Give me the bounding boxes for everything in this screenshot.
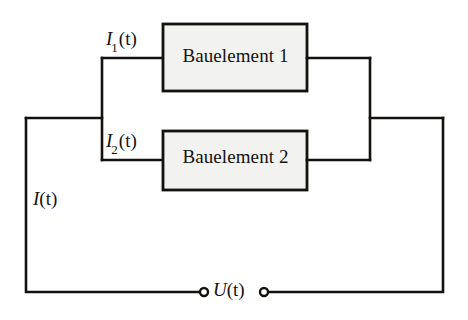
current-label-branch-1: I1(t) (106, 28, 137, 54)
voltage-terminal-right (260, 288, 268, 296)
component-label-bauelement-2: Bauelement 2 (163, 146, 308, 168)
current-subscript-branch-1: 1 (111, 40, 118, 55)
voltage-terminal-left (200, 288, 208, 296)
voltage-label: U(t) (213, 279, 245, 301)
component-label-bauelement-1: Bauelement 1 (163, 45, 308, 67)
voltage-symbol: U (213, 279, 227, 300)
voltage-argument: (t) (227, 279, 245, 300)
circuit-diagram: Bauelement 1 Bauelement 2 I1(t) I2(t) I(… (0, 0, 468, 320)
current-argument-branch-1: (t) (119, 28, 137, 49)
current-label-branch-2: I2(t) (106, 130, 137, 156)
current-subscript-branch-2: 2 (111, 142, 118, 157)
current-argument-branch-2: (t) (119, 130, 137, 151)
current-argument-total: (t) (39, 188, 57, 209)
current-label-total: I(t) (33, 188, 57, 210)
